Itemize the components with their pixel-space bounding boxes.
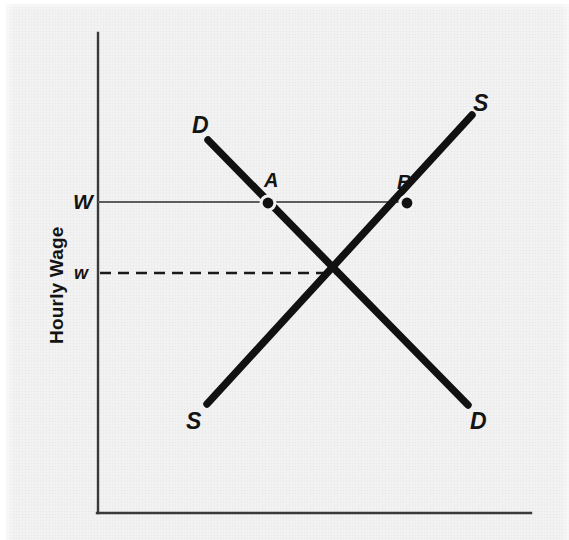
supply-curve-label-top: S — [473, 92, 488, 115]
point-b-marker — [402, 198, 413, 209]
figure-canvas: Hourly Wage W w D S S D A B — [0, 0, 569, 540]
y-tick-label-W-upper: W — [73, 191, 93, 212]
demand-curve-label-top: D — [192, 114, 209, 137]
y-axis-title: Hourly Wage — [47, 226, 66, 344]
demand-curve-label-bottom: D — [470, 410, 487, 433]
supply-curve — [207, 115, 472, 404]
y-tick-label-w-lower: w — [74, 264, 88, 282]
point-b-label: B — [397, 172, 411, 192]
point-a-label: A — [264, 170, 278, 190]
supply-curve-label-bottom: S — [186, 410, 201, 433]
point-a-marker — [263, 198, 274, 209]
